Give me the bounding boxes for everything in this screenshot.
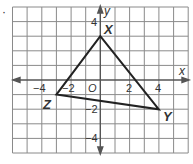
- y-tick-neg4: −4: [85, 132, 98, 144]
- origin-label: O: [88, 82, 97, 94]
- y-axis-label: y: [103, 4, 111, 18]
- axes: [13, 6, 189, 154]
- y-tick-neg2: −2: [85, 103, 98, 115]
- y-tick-pos4: 4: [91, 16, 97, 28]
- graph-svg: ·: [0, 0, 193, 164]
- x-axis-left-arrow-icon: [13, 78, 20, 83]
- coordinate-plane-figure: ·: [0, 0, 193, 164]
- x-tick-pos4: 4: [155, 82, 161, 94]
- vertex-x-label: X: [103, 22, 114, 37]
- x-axis-label: x: [178, 64, 186, 78]
- x-tick-pos2: 2: [126, 82, 132, 94]
- problem-bullet: ·: [2, 5, 6, 19]
- x-tick-neg4: −4: [33, 82, 46, 94]
- vertex-z-label: Z: [42, 97, 52, 112]
- triangle-xyz: [56, 36, 158, 109]
- x-tick-neg2: −2: [62, 82, 75, 94]
- vertex-y-label: Y: [163, 109, 173, 124]
